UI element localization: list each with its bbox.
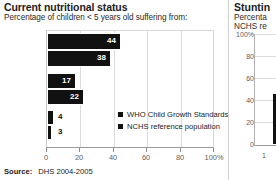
x-tick-label-100: 100% (201, 153, 227, 162)
source-label: Source: (4, 167, 32, 176)
x-tick-mark-100 (213, 148, 214, 152)
panel-divider (228, 0, 229, 180)
chart-page: Current nutritional status Percentage of… (0, 0, 276, 180)
x-tick-mark-60 (146, 148, 147, 152)
right-panel-subtitle-line1: Percenta (234, 13, 267, 22)
x-tick-label-40: 40 (103, 153, 123, 162)
page-title: Current nutritional status (4, 1, 127, 13)
bar-value-stunting-nchs: 38 (97, 53, 106, 62)
bar-value-underweight-nchs: 22 (70, 92, 79, 101)
source-value: DHS 2004-2005 (38, 167, 92, 176)
x-tick-mark-40 (113, 148, 114, 152)
bar-wasting-nchs (47, 125, 52, 140)
legend-item-who: WHO Child Growth Standards (118, 110, 228, 119)
x-tick-label-0: 0 (36, 153, 56, 162)
right-y-tick-label-100: 100% (236, 31, 254, 38)
x-tick-label-80: 80 (170, 153, 190, 162)
right-gridline-80 (255, 56, 276, 57)
legend-swatch-icon-nchs (118, 124, 123, 129)
right-y-tick-label-40: 40 (246, 97, 254, 104)
bar-value-wasting-nchs: 3 (58, 127, 62, 136)
legend-swatch-icon-who (118, 112, 123, 117)
bar-wasting-who (47, 110, 54, 125)
right-y-tick-label-80: 80 (246, 53, 254, 60)
right-gridline-60 (255, 78, 276, 79)
x-tick-label-20: 20 (69, 153, 89, 162)
right-y-tick-label-60: 60 (246, 75, 254, 82)
right-gridline-100 (255, 34, 276, 35)
bar-value-wasting-who: 4 (58, 112, 62, 121)
bar-value-stunting-who: 44 (107, 36, 116, 45)
legend: WHO Child Growth Standards NCHS referenc… (118, 110, 228, 134)
page-subtitle: Percentage of children < 5 years old suf… (4, 13, 187, 22)
legend-label-who: WHO Child Growth Standards (127, 110, 228, 119)
source-line: Source: DHS 2004-2005 (4, 167, 93, 176)
right-y-tick-label-20: 20 (246, 119, 254, 126)
legend-item-nchs: NCHS reference population (118, 122, 228, 131)
x-tick-mark-0 (46, 148, 47, 152)
right-y-tick-label-0: 0 (250, 141, 254, 148)
x-tick-label-60: 60 (136, 153, 156, 162)
x-tick-mark-80 (180, 148, 181, 152)
right-panel-subtitle-line2: NCHS re (234, 22, 267, 31)
nutritional-status-panel: Current nutritional status Percentage of… (0, 0, 224, 180)
legend-label-nchs: NCHS reference population (127, 122, 220, 131)
right-bar-stunting (273, 94, 276, 144)
bar-value-underweight-who: 17 (62, 76, 71, 85)
right-x-tick-label: 1 (262, 152, 266, 159)
right-panel-title: Stuntin (234, 1, 270, 13)
x-tick-mark-20 (79, 148, 80, 152)
stunting-panel: Stuntin Percenta NCHS re 100% 80 60 40 2… (232, 0, 276, 180)
right-plot-area (254, 34, 276, 146)
